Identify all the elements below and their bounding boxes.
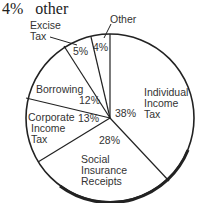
pct-corporate: 13% bbox=[78, 112, 99, 124]
pct-individual: 38% bbox=[115, 107, 136, 119]
pct-excise: 5% bbox=[73, 45, 88, 57]
pct-other: 4% bbox=[93, 41, 108, 53]
label-other: Other bbox=[110, 13, 137, 25]
label-excise-2: Tax bbox=[30, 30, 47, 42]
pct-social: 28% bbox=[99, 134, 120, 146]
label-corporate-3: Tax bbox=[31, 133, 48, 145]
pct-borrowing: 12% bbox=[79, 94, 100, 106]
pie-chart: Excise Tax Other Borrowing Corporate Inc… bbox=[0, 0, 211, 203]
label-borrowing: Borrowing bbox=[36, 83, 83, 95]
label-social-3: Receipts bbox=[81, 175, 122, 187]
leader-excise bbox=[50, 37, 77, 45]
label-individual-3: Tax bbox=[144, 108, 161, 120]
